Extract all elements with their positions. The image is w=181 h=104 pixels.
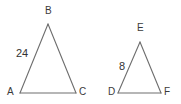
vertex-label-e: E: [137, 23, 144, 33]
vertex-label-d: D: [108, 87, 115, 97]
vertex-label-c: C: [79, 87, 86, 97]
vertex-label-a: A: [7, 87, 14, 97]
edge-bc: [48, 24, 76, 93]
vertex-label-f: F: [164, 87, 170, 97]
edge-ef: [140, 42, 161, 93]
triangle-abc-shape: [20, 24, 76, 93]
side-length-label-de: 8: [119, 61, 125, 72]
side-length-label-ab: 24: [16, 48, 28, 59]
similar-triangles-figure: B A C 24 E D F 8: [0, 0, 181, 104]
vertex-label-b: B: [45, 6, 52, 16]
